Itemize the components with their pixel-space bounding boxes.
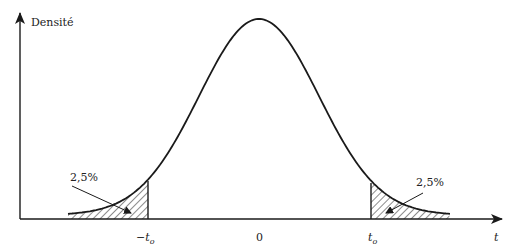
tick-neg-t-label: −to [136, 232, 154, 246]
tick-zero-label: 0 [256, 232, 263, 243]
tick-neg-t-main: −t [136, 231, 150, 244]
left-area-percent-label: 2,5% [70, 172, 98, 183]
density-curve [68, 19, 450, 214]
y-axis-label: Densité [31, 17, 74, 28]
tick-neg-t-sub: o [150, 237, 155, 246]
right-area-percent-label: 2,5% [416, 177, 444, 188]
density-diagram [0, 0, 512, 251]
tick-pos-t-label: to [368, 232, 377, 246]
x-axis-label: t [494, 232, 498, 243]
tick-pos-t-sub: o [372, 237, 377, 246]
